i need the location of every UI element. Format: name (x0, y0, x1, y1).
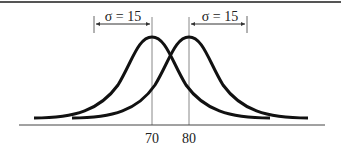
curve-mean-80 (72, 37, 308, 118)
normal-distributions-diagram: σ = 15 σ = 15 70 80 (0, 0, 341, 154)
tick-label-80: 80 (182, 131, 196, 146)
right-sigma-label: σ = 15 (202, 9, 238, 24)
left-sigma-bracket: σ = 15 (94, 9, 150, 33)
tick-label-70: 70 (145, 131, 159, 146)
right-sigma-bracket: σ = 15 (191, 9, 247, 33)
left-sigma-label: σ = 15 (105, 9, 141, 24)
